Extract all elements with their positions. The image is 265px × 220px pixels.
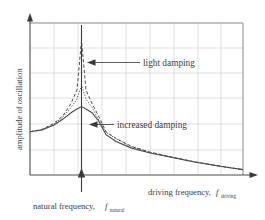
x-axis-label: driving frequency, <box>148 187 211 197</box>
x-axis-subscript: driving <box>221 193 236 199</box>
y-axis-label: amplitude of oscillation <box>14 68 24 150</box>
annotation-increased-damping: increased damping <box>117 120 187 130</box>
x-axis-symbol: f <box>216 187 220 197</box>
natural-frequency-symbol: f <box>105 201 109 211</box>
plot-background <box>30 23 243 175</box>
natural-frequency-subscript: natural <box>110 207 125 213</box>
resonance-curve-figure: light damping increased damping amplitud… <box>0 0 265 220</box>
resonance-chart-svg: light damping increased damping amplitud… <box>0 0 265 220</box>
annotation-light-damping: light damping <box>143 58 195 68</box>
natural-frequency-label: natural frequency, <box>33 201 95 211</box>
